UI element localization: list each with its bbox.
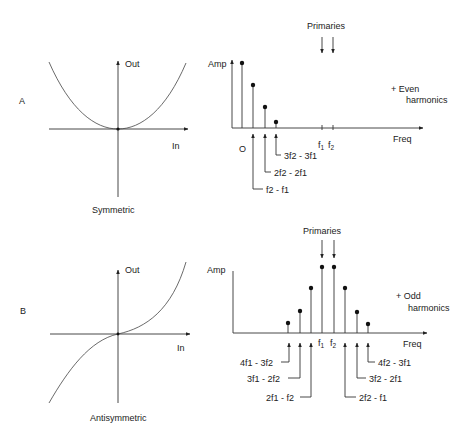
spectral-lines-b	[286, 265, 370, 333]
label-4f2-3f1: 4f2 - 3f1	[378, 358, 411, 368]
amp-label-a: Amp	[208, 59, 227, 69]
freq-label-b: Freq	[403, 339, 422, 349]
f1-label-a: f1	[318, 140, 325, 151]
out-label-a: Out	[125, 59, 140, 69]
cubic-curve	[49, 262, 186, 403]
even-harmonics-note-1: + Even	[391, 84, 419, 94]
f1-label-b: f1	[318, 338, 325, 349]
line-labels-b-left: 4f1 - 3f2 3f1 - 2f2 2f1 - f2	[240, 343, 311, 403]
out-label-b: Out	[125, 265, 140, 275]
label-4f1-3f2: 4f1 - 3f2	[240, 358, 273, 368]
label-2f2-f1: 2f2 - f1	[359, 393, 387, 403]
line-labels-b-right: 4f2 - 3f1 3f2 - 2f1 2f2 - f1	[345, 343, 411, 403]
primaries-label-b: Primaries	[303, 226, 342, 236]
primaries-label-a: Primaries	[307, 21, 346, 31]
even-harmonics-note-2: harmonics	[406, 95, 448, 105]
transfer-plot-a: Out In Symmetric	[49, 59, 188, 215]
f2-label-a: f2	[328, 140, 335, 151]
spectrum-plot-a: Amp Freq f1 f2 Primaries + Even harmonic…	[208, 21, 448, 195]
transfer-plot-b: Out In Antisymmetric	[49, 262, 190, 423]
label-2f2-2f1: 2f2 - 2f1	[274, 168, 307, 178]
label-f2-f1: f2 - f1	[266, 185, 289, 195]
panel-a: A Out In Symmetric Amp Freq	[19, 21, 448, 215]
panel-b: B Out In Antisymmetric Amp Freq	[20, 226, 450, 423]
caption-antisymmetric: Antisymmetric	[90, 413, 147, 423]
freq-label-a: Freq	[393, 134, 412, 144]
origin-dot-a	[116, 127, 119, 130]
amp-label-b: Amp	[207, 265, 226, 275]
in-label-b: In	[177, 343, 185, 353]
f2-label-b: f2	[330, 338, 337, 349]
spectral-lines-a	[240, 61, 278, 128]
label-3f2-2f1: 3f2 - 2f1	[369, 374, 402, 384]
line-labels-a: 3f2 - 3f1 2f2 - 2f1 f2 - f1	[253, 134, 317, 195]
label-3f2-3f1: 3f2 - 3f1	[284, 151, 317, 161]
caption-symmetric: Symmetric	[92, 205, 135, 215]
parabola-curve	[49, 62, 186, 129]
panel-b-letter: B	[20, 306, 26, 316]
in-label-a: In	[172, 141, 180, 151]
label-2f1-f2: 2f1 - f2	[266, 393, 294, 403]
odd-harmonics-note-1: + Odd	[396, 291, 421, 301]
label-3f1-2f2: 3f1 - 2f2	[247, 374, 280, 384]
figure-canvas: A Out In Symmetric Amp Freq	[0, 0, 475, 438]
spectrum-plot-b: Amp Freq Primaries f1 f2 + Odd harmoni	[207, 226, 450, 403]
origin-dot-b	[117, 333, 120, 336]
odd-harmonics-note-2: harmonics	[408, 303, 450, 313]
origin-label-a: O	[239, 144, 246, 154]
panel-a-letter: A	[19, 96, 25, 106]
